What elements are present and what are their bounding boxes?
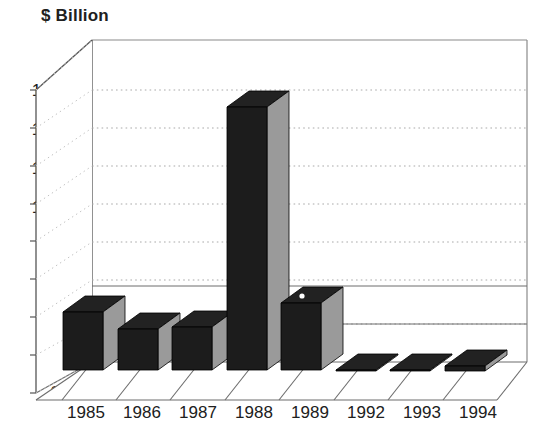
bar-1989[interactable]	[281, 287, 343, 370]
chart-figure: $ Billion 160 140 120 100 80 60 40 20 0 …	[0, 0, 539, 435]
figure-caption	[6, 425, 536, 435]
bar-1987[interactable]	[172, 311, 234, 370]
bar-1985[interactable]	[63, 296, 125, 370]
plot-area	[0, 0, 539, 435]
bar-1988[interactable]	[227, 91, 289, 370]
y-axis-ticks	[30, 90, 36, 393]
bar-1989-highlight-speck	[299, 293, 304, 298]
